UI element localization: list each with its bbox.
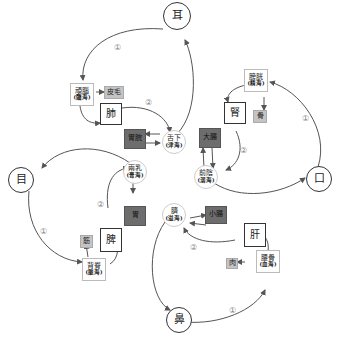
- node-qi: 臍(溢海): [162, 203, 186, 227]
- label: 胃: [132, 212, 139, 219]
- label: 肉: [229, 260, 236, 267]
- node-weiwan: 胃脘: [124, 129, 146, 149]
- label: 肺: [106, 109, 116, 120]
- node-xiaochang: 小腸: [205, 206, 227, 224]
- node-gu: 骨: [253, 110, 267, 123]
- label: 筋: [83, 238, 90, 245]
- node-mu: 目: [8, 167, 34, 193]
- node-pimao: 皮毛: [104, 86, 124, 99]
- label: 大腸: [203, 134, 217, 141]
- node-yaogu: 腰骨(血海): [256, 250, 280, 273]
- sublabel: (脈海): [85, 270, 102, 276]
- sublabel: (精海): [247, 81, 264, 87]
- marker-one-mouth: ①: [302, 114, 309, 123]
- label: 目: [16, 174, 27, 186]
- sublabel: (膏海): [126, 173, 143, 179]
- sublabel: (血海): [259, 262, 276, 268]
- node-er: 耳: [163, 2, 191, 30]
- label: 口: [314, 173, 325, 185]
- label: 骨: [257, 113, 264, 120]
- label: 肝: [250, 230, 260, 241]
- sublabel: (津海): [165, 143, 182, 149]
- node-dachang: 大腸: [199, 128, 221, 148]
- node-pangguang: 膀胱(精海): [244, 69, 268, 92]
- marker-one-eye: ①: [40, 227, 47, 236]
- label: 耳: [172, 10, 183, 22]
- node-kou: 口: [306, 166, 332, 192]
- sublabel: (溢海): [165, 216, 182, 222]
- node-wei: 胃: [124, 206, 146, 226]
- marker-two-nose: ②: [190, 243, 197, 252]
- connector-arrows: [0, 0, 344, 350]
- marker-one-nose: ①: [229, 306, 236, 315]
- node-pi: 脾: [100, 228, 122, 252]
- marker-two-mouth: ②: [240, 146, 247, 155]
- node-shen: 腎: [224, 102, 246, 124]
- node-bi: 鼻: [166, 307, 192, 333]
- label: 脾: [106, 235, 116, 246]
- marker-one-ear: ①: [114, 43, 121, 52]
- marker-two-ear: ②: [145, 98, 152, 107]
- label: 胃脘: [128, 135, 142, 142]
- marker-two-eye: ②: [97, 200, 104, 209]
- label: 小腸: [209, 211, 223, 218]
- label: 腎: [230, 108, 240, 119]
- sublabel: (溺海): [197, 178, 214, 184]
- label: 皮毛: [107, 89, 121, 96]
- sublabel: (髓海): [73, 95, 90, 101]
- node-naosui: 頑腦(髓海): [70, 83, 94, 106]
- node-fei: 肺: [100, 103, 122, 125]
- node-beiji: 背脊(脈海): [82, 258, 106, 281]
- node-gan: 肝: [244, 223, 266, 247]
- node-qianyin: 前陰(溺海): [194, 165, 218, 189]
- node-rou: 肉: [226, 258, 238, 269]
- node-jin: 筋: [80, 235, 93, 248]
- node-liangru: 兩乳(膏海): [123, 160, 147, 184]
- node-shexia: 舌下(津海): [162, 130, 186, 154]
- label: 鼻: [174, 314, 185, 326]
